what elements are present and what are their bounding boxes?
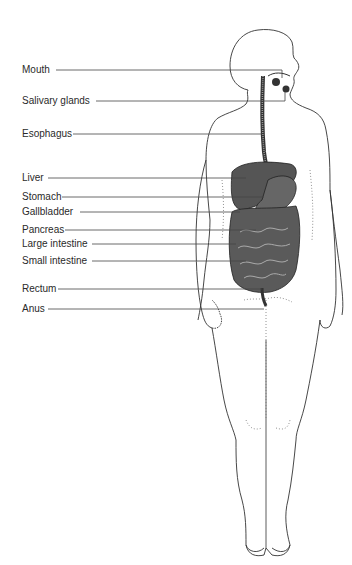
intestines-shape	[229, 206, 300, 293]
label-large-intestine: Large intestine	[22, 238, 89, 250]
label-liver: Liver	[22, 172, 45, 184]
label-small-intestine: Small intestine	[22, 255, 88, 267]
label-mouth: Mouth	[22, 64, 51, 76]
label-pancreas: Pancreas	[22, 224, 65, 236]
salivary-gland-shape	[272, 78, 280, 86]
label-anus: Anus	[22, 303, 46, 315]
label-salivary-glands: Salivary glands	[22, 95, 91, 107]
label-esophagus: Esophagus	[22, 128, 73, 140]
label-gallbladder: Gallbladder	[22, 206, 74, 218]
label-rectum: Rectum	[22, 283, 57, 295]
label-stomach: Stomach	[22, 191, 62, 203]
